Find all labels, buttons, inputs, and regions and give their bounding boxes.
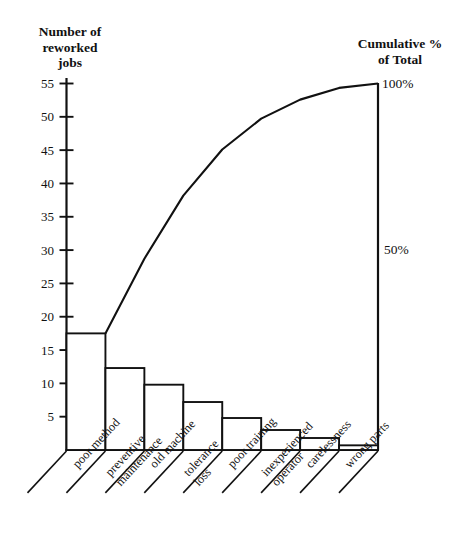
plot-area	[0, 0, 460, 558]
category-separator-0	[27, 451, 66, 493]
cumulative-line	[105, 84, 378, 334]
pareto-chart: Number of reworked jobs Cumulative % of …	[0, 0, 460, 558]
